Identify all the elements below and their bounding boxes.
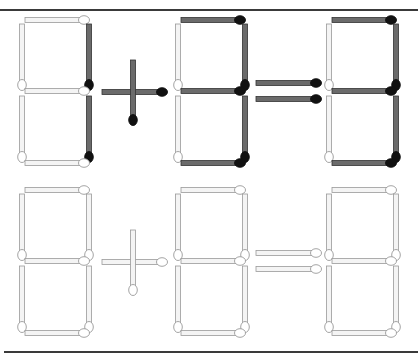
- row0-digit0-segment-e-matchstick[interactable]: [18, 96, 27, 163]
- row1-digit0-segment-e-matchstick[interactable]: [18, 266, 27, 333]
- row1-digit0-segment-c-matchstick[interactable]: [85, 266, 94, 333]
- row0-digit1-segment-b-matchstick[interactable]: [241, 24, 250, 91]
- row0-digit0-segment-a-matchstick[interactable]: [25, 16, 90, 25]
- row0-digit0-segment-g-matchstick[interactable]: [25, 87, 90, 96]
- row0-equals-bottom-matchstick[interactable]: [256, 95, 322, 104]
- row1-digit0-segment-b-matchstick[interactable]: [85, 194, 94, 261]
- row0-digit0-segment-b-matchstick[interactable]: [85, 24, 94, 91]
- row0-digit1-segment-f-matchstick[interactable]: [174, 24, 183, 91]
- row0-digit2-segment-d-matchstick[interactable]: [332, 159, 397, 168]
- row0-equals-top-matchstick[interactable]: [256, 79, 322, 88]
- row0-digit0-segment-d-matchstick[interactable]: [25, 159, 90, 168]
- matchstick-board: [0, 0, 418, 360]
- row1-digit2-segment-d-matchstick[interactable]: [332, 329, 397, 338]
- row1-digit1-segment-d-matchstick[interactable]: [181, 329, 246, 338]
- row0-digit2-segment-b-matchstick[interactable]: [392, 24, 401, 91]
- row1-digit1-segment-b-matchstick[interactable]: [241, 194, 250, 261]
- row1-equals-top-matchstick[interactable]: [256, 249, 322, 258]
- row0-digit2-segment-e-matchstick[interactable]: [325, 96, 334, 163]
- row1-digit2-segment-e-matchstick[interactable]: [325, 266, 334, 333]
- row1-digit0-segment-f-matchstick[interactable]: [18, 194, 27, 261]
- row0-digit1-segment-e-matchstick[interactable]: [174, 96, 183, 163]
- row1-digit1-segment-c-matchstick[interactable]: [241, 266, 250, 333]
- row0-digit2-segment-f-matchstick[interactable]: [325, 24, 334, 91]
- row1-digit1-segment-e-matchstick[interactable]: [174, 266, 183, 333]
- row1-digit0-segment-a-matchstick[interactable]: [25, 186, 90, 195]
- row0-digit2-segment-c-matchstick[interactable]: [392, 96, 401, 163]
- row0-digit1-segment-g-matchstick[interactable]: [181, 87, 246, 96]
- row0-digit1-segment-c-matchstick[interactable]: [241, 96, 250, 163]
- row1-equals-bottom-matchstick[interactable]: [256, 265, 322, 274]
- row0-digit0-segment-c-matchstick[interactable]: [85, 96, 94, 163]
- row0-digit1-segment-a-matchstick[interactable]: [181, 16, 246, 25]
- row1-digit2-segment-b-matchstick[interactable]: [392, 194, 401, 261]
- row1-digit2-segment-a-matchstick[interactable]: [332, 186, 397, 195]
- puzzle-canvas: [0, 0, 418, 360]
- row1-digit1-segment-g-matchstick[interactable]: [181, 257, 246, 266]
- row1-digit2-segment-g-matchstick[interactable]: [332, 257, 397, 266]
- row1-digit0-segment-g-matchstick[interactable]: [25, 257, 90, 266]
- row0-digit1-segment-d-matchstick[interactable]: [181, 159, 246, 168]
- row1-digit0-segment-d-matchstick[interactable]: [25, 329, 90, 338]
- row0-digit0-segment-f-matchstick[interactable]: [18, 24, 27, 91]
- row1-digit2-segment-f-matchstick[interactable]: [325, 194, 334, 261]
- row1-digit1-segment-f-matchstick[interactable]: [174, 194, 183, 261]
- row1-digit1-segment-a-matchstick[interactable]: [181, 186, 246, 195]
- row1-digit2-segment-c-matchstick[interactable]: [392, 266, 401, 333]
- row0-digit2-segment-g-matchstick[interactable]: [332, 87, 397, 96]
- row0-digit2-segment-a-matchstick[interactable]: [332, 16, 397, 25]
